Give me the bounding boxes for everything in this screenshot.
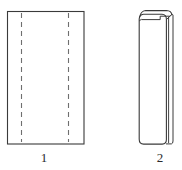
line-drawing-canvas	[0, 0, 182, 170]
figure-2-label: 2	[150, 151, 170, 164]
figure-2-group	[139, 11, 173, 145]
figure-1-outline	[8, 12, 85, 145]
figure-2-back-flap	[166, 14, 173, 144]
figure-1-label: 1	[34, 151, 54, 164]
figure-2-front-panel	[139, 14, 166, 144]
figure-plate: 1 2	[0, 0, 182, 170]
figure-1-group	[8, 12, 85, 145]
